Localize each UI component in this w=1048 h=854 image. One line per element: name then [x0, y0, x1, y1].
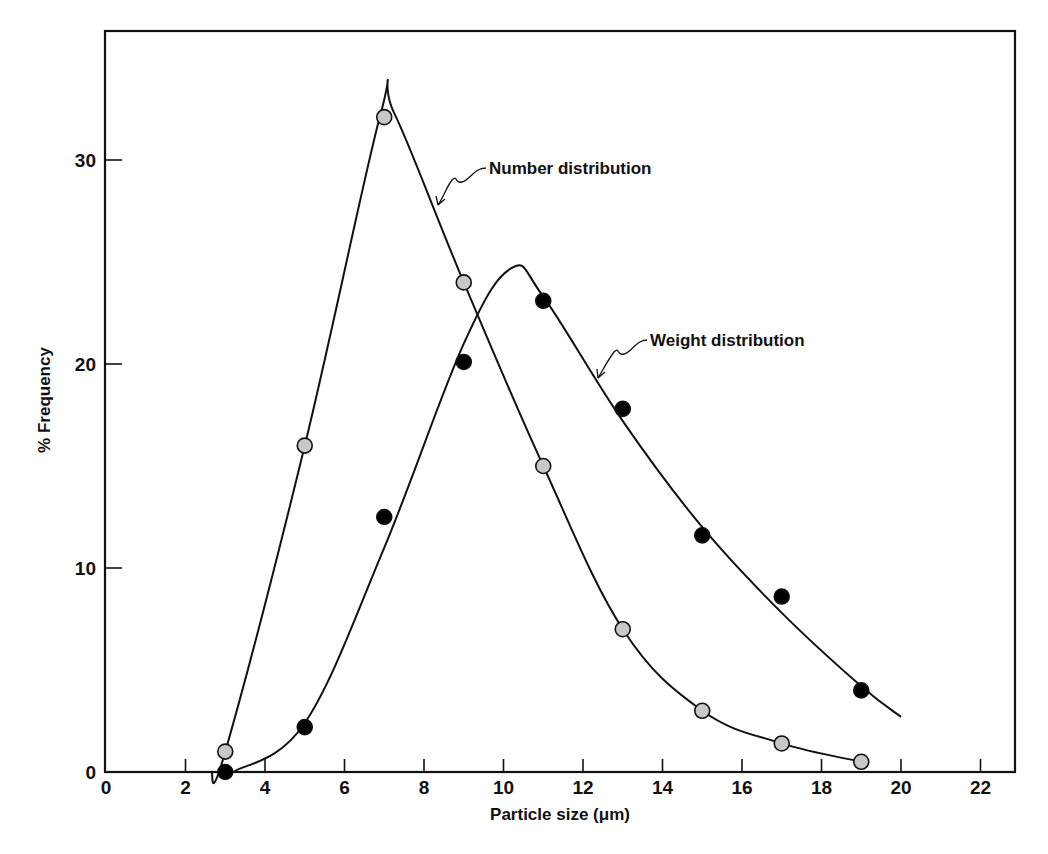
weight-distribution-point — [695, 528, 710, 543]
weight-distribution-point — [218, 765, 233, 780]
weight-distribution-point — [854, 683, 869, 698]
weight-distribution-label: Weight distribution — [650, 331, 805, 350]
x-tick-label: 16 — [731, 777, 752, 798]
y-axis-title: % Frequency — [35, 347, 54, 453]
y-tick-label: 0 — [85, 762, 96, 783]
x-tick-label: 12 — [572, 777, 593, 798]
x-tick-label: 18 — [811, 777, 832, 798]
y-tick-label: 10 — [75, 558, 96, 579]
number-distribution-point — [456, 275, 471, 290]
number-distribution-label: Number distribution — [489, 159, 651, 178]
number-distribution-point — [774, 736, 789, 751]
number-distribution-point — [297, 438, 312, 453]
number-distribution-point — [377, 110, 392, 125]
weight-annotation-arrow — [598, 340, 647, 378]
x-tick-label: 0 — [101, 777, 112, 798]
weight-distribution-point — [456, 354, 471, 369]
number-distribution-curve — [211, 80, 861, 783]
y-axis-ticks: 0102030 — [75, 150, 122, 783]
particle-size-chart: 0246810121416182022 0102030 Number distr… — [0, 0, 1048, 854]
number-distribution-point — [854, 754, 869, 769]
x-tick-label: 2 — [180, 777, 191, 798]
weight-distribution-point — [615, 401, 630, 416]
weight-distribution-point — [774, 589, 789, 604]
x-tick-label: 6 — [339, 777, 350, 798]
x-tick-label: 22 — [970, 777, 991, 798]
series-markers — [218, 110, 869, 780]
weight-distribution-point — [297, 720, 312, 735]
x-tick-label: 10 — [493, 777, 514, 798]
number-distribution-point — [536, 459, 551, 474]
weight-distribution-point — [536, 293, 551, 308]
y-tick-label: 30 — [75, 150, 96, 171]
number-distribution-point — [695, 703, 710, 718]
x-tick-label: 4 — [260, 777, 271, 798]
x-tick-label: 14 — [652, 777, 674, 798]
weight-distribution-point — [377, 510, 392, 525]
x-tick-label: 8 — [419, 777, 430, 798]
plot-frame — [105, 31, 1015, 772]
number-distribution-point — [218, 744, 233, 759]
series-curves — [211, 80, 901, 783]
y-tick-label: 20 — [75, 354, 96, 375]
x-axis-title: Particle size (μm) — [490, 805, 630, 824]
x-tick-label: 20 — [890, 777, 911, 798]
number-distribution-point — [615, 622, 630, 637]
